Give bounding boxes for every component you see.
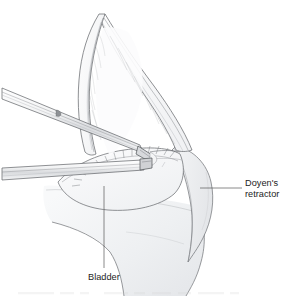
label-doyens-retractor-line2: retractor (245, 189, 279, 199)
surgical-illustration: Doyen's retractor Bladder (0, 0, 300, 299)
figure-root: Doyen's retractor Bladder (0, 0, 300, 299)
label-bladder-line1: Bladder (88, 272, 120, 282)
label-bladder: Bladder (88, 272, 120, 282)
label-doyens-retractor: Doyen's retractor (245, 178, 279, 199)
label-doyens-retractor-line1: Doyen's (245, 178, 278, 188)
